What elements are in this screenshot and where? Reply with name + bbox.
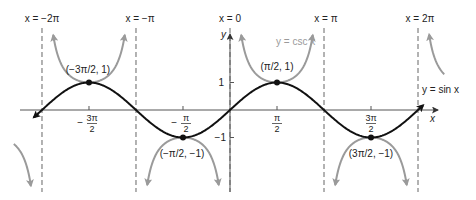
csc-branch [53,35,124,82]
svg-text:2: 2 [274,124,279,134]
y-tick-label-1: 1 [218,77,224,88]
svg-text:3π: 3π [365,113,376,123]
asymptote-label-negpi: x = −π [125,13,154,24]
csc-branch-partial [429,35,444,74]
point-label-3pi2: (3π/2, −1) [349,148,393,159]
asymptote-label-2pi: x = 2π [406,13,435,24]
svg-text:2: 2 [89,124,94,134]
x-tick-label: −π2 [171,113,191,134]
key-point [368,135,374,141]
point-label-negpi2: (−π/2, −1) [160,148,205,159]
svg-text:π: π [274,113,280,123]
key-point [180,135,186,141]
svg-text:2: 2 [183,124,188,134]
svg-text:−: − [77,117,83,128]
y-tick-label-neg1: −1 [215,132,227,143]
x-tick-label: π2 [272,113,282,134]
svg-text:2: 2 [368,124,373,134]
x-tick-label: 3π2 [365,113,376,134]
y-axis-label: y [220,29,227,40]
x-tick-label: −3π2 [77,113,97,134]
csc-branch [335,138,406,185]
csc-branch [147,138,218,185]
sin-series-label: y = sin x [422,84,459,95]
key-point [274,80,280,86]
x-axis-label: x [429,113,436,124]
asymptote-label-neg2pi: x = −2π [25,13,60,24]
asymptote-label-zero: x = 0 [219,13,241,24]
svg-text:−: − [171,117,177,128]
csc-branch-partial [14,144,31,186]
asymptote-label-pi: x = π [314,13,337,24]
svg-text:π: π [183,113,189,123]
point-label-pi2: (π/2, 1) [260,61,293,72]
svg-text:3π: 3π [86,113,97,123]
point-label-neg3pi2: (−3π/2, 1) [66,64,110,75]
key-point [86,80,92,86]
csc-series-label: y = csc x [276,36,315,47]
sin-csc-graph: −3π2−π2π23π2 x = −2π x = −π x = 0 x = π … [0,0,476,200]
